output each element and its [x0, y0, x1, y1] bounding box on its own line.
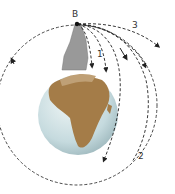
launch-point [75, 22, 79, 26]
label-point-b: B [72, 10, 78, 19]
earth-globe [38, 74, 118, 155]
label-trajectory-3: 3 [132, 21, 138, 30]
trajectory-arrow-e [120, 48, 126, 58]
orbit-arrow [12, 60, 14, 64]
diagram-canvas [0, 0, 175, 194]
mountain [62, 24, 88, 70]
label-trajectory-2: 2 [138, 152, 144, 161]
label-trajectory-1: 1 [97, 50, 103, 59]
trajectory-inner [78, 24, 145, 66]
